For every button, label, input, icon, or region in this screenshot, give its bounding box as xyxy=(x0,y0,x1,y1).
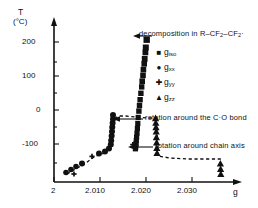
legend-triangle-icon: ▲ xyxy=(154,93,164,102)
x-tick-label-2020: 2.020 xyxy=(131,186,151,195)
legend-circle-icon: ● xyxy=(154,63,164,72)
annotation-decomposition-part3: · xyxy=(241,29,244,38)
data-point-g-xx xyxy=(68,167,74,173)
data-point-g-zz xyxy=(217,160,224,167)
annotation-co-bond-rotation: rotation around the C·O bond xyxy=(145,113,247,122)
y-axis-title: T xyxy=(18,8,23,17)
legend-item-g-iso: ■giso xyxy=(154,47,176,57)
data-point-g-iso xyxy=(139,84,144,89)
legend-item-g-xx: ●gxx xyxy=(154,62,175,72)
y-tick-label-100: 100 xyxy=(22,71,35,80)
annotation-decomposition-part1: decomposition in R–CF xyxy=(139,29,220,38)
x-tick-label-2010: 2.010 xyxy=(85,186,105,195)
x-tick-label-2030: 2.030 xyxy=(177,186,197,195)
data-point-g-iso xyxy=(137,97,142,102)
data-point-g-iso xyxy=(140,73,146,79)
data-point-g-yy xyxy=(71,171,76,176)
legend-item-g-zz: ▲gzz xyxy=(154,92,175,102)
data-point-g-iso xyxy=(135,126,140,131)
data-point-g-iso xyxy=(143,50,149,56)
legend-subscript-zz: zz xyxy=(169,96,175,102)
data-point-g-xx xyxy=(79,161,85,167)
annotation-decomposition-part2: –CF xyxy=(223,29,238,38)
data-point-g-yy xyxy=(89,154,94,159)
data-point-g-iso xyxy=(135,121,140,126)
data-point-g-xx xyxy=(96,151,102,157)
data-point-g-iso xyxy=(141,67,147,73)
y-axis-arrowhead xyxy=(51,17,57,26)
data-point-g-iso xyxy=(138,91,143,96)
series-g-iso-markers xyxy=(133,37,150,152)
legend-subscript-iso: iso xyxy=(169,51,177,57)
y-tick-label-200: 200 xyxy=(22,37,35,46)
legend-square-icon: ■ xyxy=(154,48,164,57)
data-point-g-xx xyxy=(73,164,79,170)
x-axis-title: g xyxy=(233,188,238,197)
legend-item-g-yy: ✚gyy xyxy=(154,77,175,87)
data-point-g-iso xyxy=(136,108,141,113)
data-point-g-iso xyxy=(141,61,147,67)
legend-subscript-xx: xx xyxy=(169,66,175,72)
esr-g-tensor-temperature-figure: T (°C) g 200 100 0 -100 2 2.010 2.020 2.… xyxy=(0,0,258,208)
data-point-g-xx xyxy=(63,170,69,176)
legend-plus-icon: ✚ xyxy=(154,78,164,87)
data-point-g-iso xyxy=(142,56,148,62)
data-point-g-xx xyxy=(102,149,108,155)
x-axis-arrowhead xyxy=(233,179,242,185)
legend-subscript-yy: yy xyxy=(169,81,175,87)
series-g-xx-markers xyxy=(63,112,116,175)
y-axis-unit-label: (°C) xyxy=(13,17,27,26)
data-point-g-iso xyxy=(137,103,142,108)
y-tick-label-0: 0 xyxy=(36,105,40,114)
annotation-decomposition: decomposition in R–CF2–CF2· xyxy=(139,29,244,38)
y-tick-label-neg100: -100 xyxy=(22,139,38,148)
annotation-chain-axis-rotation: rotation around chain axis xyxy=(155,141,245,150)
x-tick-label-2000: 2 xyxy=(51,186,55,195)
data-point-g-iso xyxy=(139,78,145,84)
